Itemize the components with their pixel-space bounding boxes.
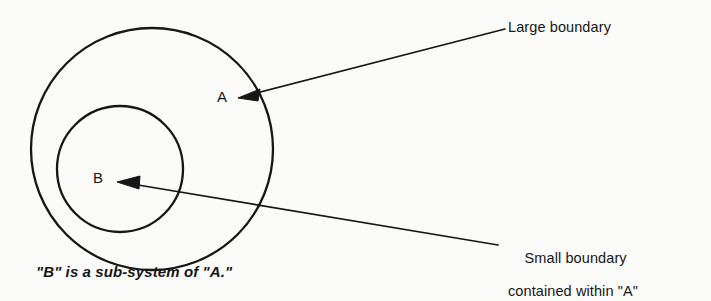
small-boundary-arrowhead (117, 176, 140, 189)
large-boundary-leader-line (245, 29, 505, 96)
small-boundary-callout-line2: contained within "A" (508, 284, 638, 299)
large-circle-label: A (217, 89, 227, 104)
large-boundary-circle (31, 28, 273, 270)
small-boundary-leader-line (126, 183, 498, 245)
figure-caption: "B" is a sub-system of "A." (36, 264, 232, 279)
large-boundary-arrowhead (238, 89, 260, 101)
small-boundary-circle (57, 106, 183, 232)
small-boundary-callout-text: Small boundary contained within "A" (508, 236, 638, 301)
small-circle-label: B (93, 170, 103, 185)
large-boundary-callout-text: Large boundary (508, 20, 611, 35)
small-boundary-callout-line1: Small boundary (525, 250, 627, 266)
diagram-canvas: A B Large boundary Small boundary contai… (0, 0, 711, 301)
